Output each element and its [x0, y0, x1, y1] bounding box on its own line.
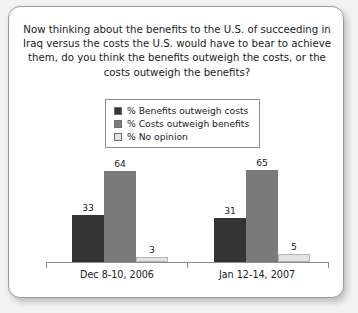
- bar-rect: [246, 170, 278, 262]
- bar-value-label: 65: [256, 158, 268, 168]
- legend-item: % Benefits outweigh costs: [114, 104, 249, 117]
- axis-tick-right: [328, 263, 329, 268]
- bar-rect: [214, 218, 246, 262]
- chart-plot-area: 33 64 3 31 65 5: [39, 157, 335, 263]
- bar-rect: [278, 254, 310, 262]
- legend-swatch-benefits-outweigh-costs: [114, 107, 122, 115]
- legend-label: % Costs outweigh benefits: [127, 118, 249, 129]
- category-label-0: Dec 8-10, 2006: [47, 269, 187, 280]
- legend-item: % No opinion: [114, 130, 249, 143]
- chart-card: Now thinking about the benefits to the U…: [8, 6, 344, 298]
- category-label-1: Jan 12-14, 2007: [187, 269, 327, 280]
- bar-no-opinion: 5: [278, 157, 310, 262]
- bar-value-label: 31: [224, 206, 236, 216]
- chart-legend: % Benefits outweigh costs % Costs outwei…: [105, 99, 260, 148]
- chart-title: Now thinking about the benefits to the U…: [23, 23, 331, 80]
- legend-label: % No opinion: [127, 131, 188, 142]
- bar-rect: [72, 215, 104, 262]
- bar-group-dec-8-10-2006: 33 64 3: [72, 157, 168, 262]
- legend-swatch-no-opinion: [114, 133, 122, 141]
- axis-tick-middle: [187, 263, 188, 268]
- bar-value-label: 3: [149, 245, 155, 255]
- bar-value-label: 33: [82, 203, 94, 213]
- x-axis-categories: Dec 8-10, 2006 Jan 12-14, 2007: [39, 269, 335, 287]
- legend-item: % Costs outweigh benefits: [114, 117, 249, 130]
- bar-costs-outweigh-benefits: 64: [104, 157, 136, 262]
- bar-value-label: 64: [114, 159, 126, 169]
- bar-benefits-outweigh-costs: 31: [214, 157, 246, 262]
- bar-group-jan-12-14-2007: 31 65 5: [214, 157, 310, 262]
- bar-costs-outweigh-benefits: 65: [246, 157, 278, 262]
- legend-swatch-costs-outweigh-benefits: [114, 120, 122, 128]
- legend-label: % Benefits outweigh costs: [127, 105, 248, 116]
- bar-no-opinion: 3: [136, 157, 168, 262]
- bar-value-label: 5: [291, 242, 297, 252]
- bar-rect: [104, 171, 136, 262]
- axis-tick-left: [46, 263, 47, 268]
- bar-benefits-outweigh-costs: 33: [72, 157, 104, 262]
